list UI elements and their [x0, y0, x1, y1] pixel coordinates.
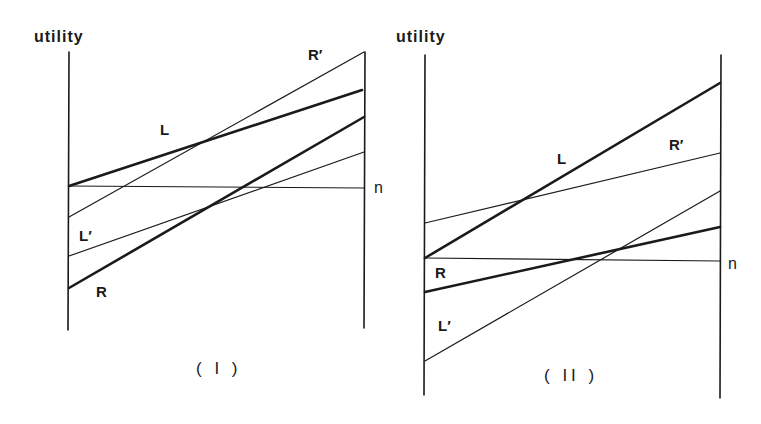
panel-i-line-l — [69, 90, 362, 186]
panel-i-line-r-prime — [69, 52, 364, 217]
panel-i-line-n — [69, 186, 364, 188]
panel-ii-left-axis — [424, 55, 425, 395]
panel-i-line-r — [69, 117, 364, 288]
diagram-canvas — [0, 0, 761, 424]
panel-i-label-r-prime: R′ — [308, 47, 322, 62]
panel-i-label-l: L — [160, 122, 169, 137]
panel-ii-label-l: L — [557, 151, 566, 166]
panel-i-label-n: n — [374, 180, 383, 196]
panel-i-line-l-prime — [69, 152, 364, 256]
panel-i-y-axis-label: utility — [34, 29, 84, 45]
panel-ii-caption: ( II ) — [544, 367, 598, 384]
panel-ii — [424, 55, 721, 398]
panel-i-label-r: R — [96, 284, 107, 299]
panel-i-label-l-prime: L′ — [79, 228, 92, 243]
panel-i-right-axis — [364, 52, 365, 328]
panel-i-caption: ( I ) — [196, 360, 242, 377]
panel-ii-label-r-prime: R′ — [669, 137, 683, 152]
panel-ii-line-r — [425, 227, 720, 292]
panel-ii-line-l-prime — [425, 191, 720, 361]
panel-ii-label-r: R — [435, 265, 446, 280]
panel-ii-line-r-prime — [425, 153, 720, 223]
utility-diagram-figure: utility R′ L L′ R n ( I ) utility R′ L R… — [0, 0, 761, 424]
panel-i — [68, 52, 365, 330]
panel-ii-label-l-prime: L′ — [438, 318, 451, 333]
panel-ii-line-l — [425, 83, 720, 258]
panel-ii-label-n: n — [728, 256, 737, 272]
panel-ii-y-axis-label: utility — [396, 29, 446, 45]
